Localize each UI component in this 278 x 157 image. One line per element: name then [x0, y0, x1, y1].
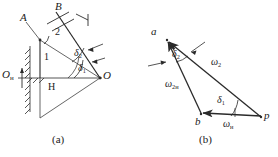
- pointer-arrow-delta-2-b: [191, 42, 205, 52]
- label-vector-omega-2-base: ω: [211, 56, 218, 67]
- label-vector-omega-2: ω2: [211, 57, 221, 67]
- label-angle-delta-2: δ2: [74, 48, 82, 58]
- label-point-O: O: [103, 70, 111, 81]
- label-vector-omega-2n-base: ω: [165, 78, 172, 89]
- perpendicular-tick-icon: [76, 14, 88, 26]
- label-angle-delta-1-b: δ1: [217, 95, 225, 105]
- label-vector-omega-n: ωн: [223, 119, 233, 129]
- figure-container: A B 2 1 O Oн H δ2 δ1 (a): [0, 0, 278, 157]
- label-angle-delta-1-b-base: δ: [217, 94, 222, 105]
- vector-omega-2-line: [169, 42, 261, 117]
- label-point-B: B: [55, 1, 62, 12]
- link-A-bar: [26, 22, 40, 40]
- wall-hatching: [25, 46, 30, 114]
- panel-a-drawing: [0, 0, 139, 157]
- label-vector-omega-n-base: ω: [223, 118, 230, 129]
- label-link-2: 2: [55, 27, 60, 37]
- label-vector-omega-n-subscript: н: [230, 123, 233, 130]
- label-vector-omega-2n-subscript: 2н: [172, 83, 179, 90]
- label-point-O-fixed-base: O: [2, 68, 10, 80]
- caption-panel-a: (a): [52, 133, 64, 145]
- label-point-O-fixed: Oн: [2, 69, 14, 80]
- link-2-line: [40, 40, 100, 78]
- label-point-H: H: [48, 82, 55, 92]
- label-vertex-a: a: [151, 26, 157, 37]
- label-point-O-fixed-subscript: н: [10, 74, 14, 81]
- panel-b-vector-polygon: a b p ω2 ω2н ωн δ2 δ1 (b): [139, 0, 278, 157]
- panel-a-mechanism-diagram: A B 2 1 O Oн H δ2 δ1 (a): [0, 0, 139, 157]
- arrow-up-at-On: [20, 68, 24, 73]
- label-vertex-b: b: [195, 116, 201, 127]
- pointer-arrowhead-delta-2-left: [161, 61, 167, 66]
- vertex-dot-a: [166, 39, 168, 41]
- slider-guide-marks: [47, 12, 74, 31]
- pointer-arrowhead-delta-2: [88, 48, 94, 53]
- label-link-1: 1: [44, 52, 49, 62]
- label-vertex-p: p: [264, 110, 270, 121]
- label-vector-omega-2-subscript: 2: [218, 61, 221, 68]
- label-angle-delta-2-subscript: 2: [79, 52, 82, 59]
- label-point-A: A: [20, 12, 27, 23]
- caption-panel-b: (b): [199, 133, 212, 145]
- label-angle-delta-2-base: δ: [74, 47, 79, 58]
- joint-dot-O: [99, 77, 102, 80]
- label-angle-delta-1-subscript: 1: [83, 67, 86, 74]
- angle-arc-delta-1-b: [231, 100, 238, 116]
- label-angle-delta-2-b-subscript: 2: [177, 53, 180, 60]
- label-vector-omega-2n: ω2н: [165, 79, 179, 89]
- label-angle-delta-1: δ1: [78, 63, 86, 73]
- ground-line-horizontal: [18, 78, 102, 83]
- label-angle-delta-2-b: δ2: [172, 49, 180, 59]
- label-angle-delta-2-b-base: δ: [172, 48, 177, 59]
- label-angle-delta-1-base: δ: [78, 62, 83, 73]
- joint-dot-top: [39, 39, 42, 42]
- pointer-arrowhead-delta-1: [92, 60, 98, 65]
- vertex-dot-p: [260, 116, 262, 118]
- label-angle-delta-1-b-subscript: 1: [222, 99, 225, 106]
